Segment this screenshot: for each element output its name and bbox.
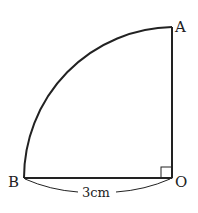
- sector-diagram: A B O 3cm: [0, 0, 198, 213]
- label-a: A: [174, 18, 186, 36]
- dimension-label: 3cm: [82, 185, 110, 200]
- label-b: B: [8, 173, 19, 191]
- dimension-brace-left: [25, 179, 78, 192]
- arc-ab: [24, 27, 172, 178]
- label-o: O: [175, 173, 187, 191]
- right-angle-mark: [161, 167, 172, 178]
- dimension-brace-right: [116, 179, 170, 192]
